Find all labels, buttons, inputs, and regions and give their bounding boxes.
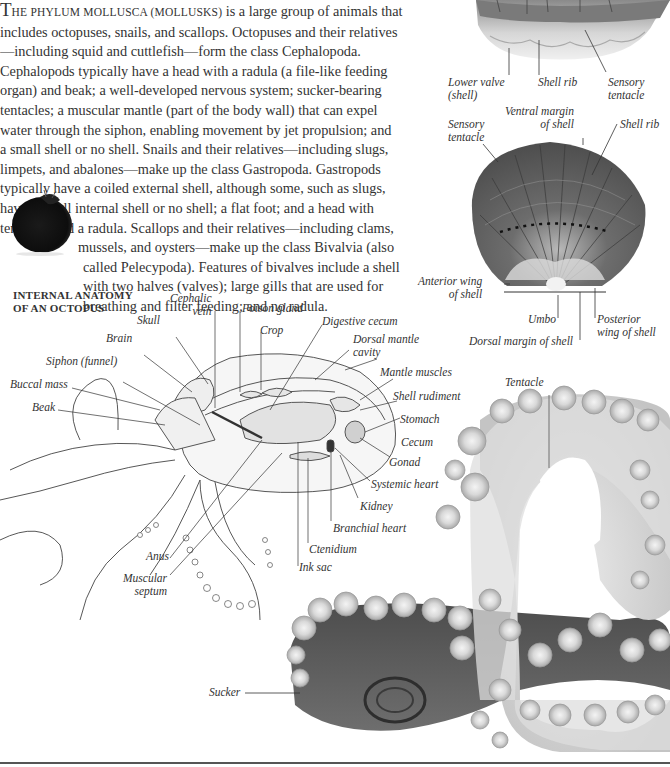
label-tentacle: Tentacle — [505, 376, 544, 389]
label-siphon: Siphon (funnel) — [46, 355, 117, 368]
label-dorsal-mantle-cavity: Dorsal mantlecavity — [353, 333, 419, 359]
label-ink-sac: Ink sac — [299, 561, 332, 574]
label-cephalic-vein: Cephalicvein — [170, 292, 212, 318]
label-anterior-wing: Anterior wingof shell — [418, 275, 482, 301]
label-sucker: Sucker — [209, 686, 240, 699]
label-dorsal-margin: Dorsal margin of shell — [469, 335, 573, 348]
label-sensory-tentacle-top: Sensorytentacle — [448, 118, 484, 144]
label-anus: Anus — [146, 550, 169, 563]
label-shell-rib-top: Shell rib — [620, 118, 659, 131]
label-kidney: Kidney — [360, 500, 393, 513]
scallop-top-illustration — [472, 124, 646, 340]
label-cecum: Cecum — [401, 436, 433, 449]
label-lower-valve: Lower valve(shell) — [448, 76, 505, 102]
label-mantle-muscles: Mantle muscles — [380, 366, 452, 379]
label-gonad: Gonad — [389, 456, 420, 469]
label-stomach: Stomach — [400, 413, 440, 426]
label-skull: Skull — [137, 314, 160, 327]
label-brain: Brain — [106, 332, 132, 345]
bottom-rule — [0, 762, 670, 764]
scallop-side-illustration — [476, 0, 670, 75]
label-posterior-wing: Posteriorwing of shell — [597, 313, 656, 339]
snail-illustration — [12, 190, 72, 256]
label-shell-rib-side: Shell rib — [538, 76, 577, 89]
label-crop: Crop — [260, 324, 283, 337]
label-sensory-tentacle-side: Sensorytentacle — [608, 76, 644, 102]
label-ctenidium: Ctenidium — [309, 543, 357, 556]
label-buccal-mass: Buccal mass — [10, 378, 68, 391]
label-shell-rudiment: Shell rudiment — [393, 390, 460, 403]
label-digestive-cecum: Digestive cecum — [322, 315, 398, 328]
label-ventral-margin: Ventral marginof shell — [505, 105, 574, 131]
octopus-anatomy-heading: INTERNAL ANATOMYOF AN OCTOPUS — [13, 289, 133, 315]
label-poison-gland: Poison gland — [242, 302, 303, 315]
label-branchial-heart: Branchial heart — [333, 522, 406, 535]
label-muscular-septum: Muscularseptum — [123, 572, 167, 598]
label-systemic-heart: Systemic heart — [371, 478, 438, 491]
label-umbo: Umbo — [528, 313, 556, 326]
label-beak: Beak — [32, 401, 55, 414]
